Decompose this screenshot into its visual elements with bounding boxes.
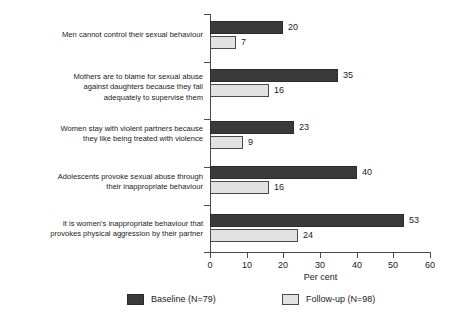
category-label-0: Men cannot control their sexual behaviou… <box>13 30 203 40</box>
bar-baseline-3[interactable] <box>210 166 357 179</box>
bar-value-baseline-2: 23 <box>299 121 309 134</box>
category-label-line: adequately to supervise them <box>13 93 203 103</box>
legend-label-baseline: Baseline (N=79) <box>151 292 216 307</box>
category-label-line: against daughters because they fail <box>13 82 203 92</box>
legend-swatch-baseline <box>127 294 144 305</box>
chart-legend: Baseline (N=79) Follow-up (N=98) <box>0 292 457 312</box>
bar-value-followup-2: 9 <box>248 136 253 149</box>
bar-followup-3[interactable] <box>210 181 269 194</box>
value-axis-tick-label: 30 <box>308 260 332 271</box>
category-label-4: It is women's inappropriate behaviour th… <box>13 219 203 240</box>
category-label-line: provokes physical aggression by their pa… <box>13 229 203 239</box>
category-label-line: Mothers are to blame for sexual abuse <box>13 72 203 82</box>
value-axis-tick <box>393 252 394 258</box>
value-axis-tick <box>357 252 358 258</box>
value-axis-tick <box>247 252 248 258</box>
bar-value-baseline-3: 40 <box>362 166 372 179</box>
category-label-3: Adolescents provoke sexual abuse through… <box>13 172 203 193</box>
category-axis-tick <box>204 205 210 206</box>
bar-value-followup-4: 24 <box>303 229 313 242</box>
bar-baseline-4[interactable] <box>210 214 404 227</box>
x-axis-title: Per cent <box>210 272 431 282</box>
category-label-line: Men cannot control their sexual behaviou… <box>13 30 203 40</box>
value-axis-tick <box>283 252 284 258</box>
category-label-line: Women stay with violent partners because <box>13 124 203 134</box>
category-axis-tick <box>204 119 210 120</box>
bar-followup-2[interactable] <box>210 136 243 149</box>
bar-chart: Men cannot control their sexual behaviou… <box>0 0 457 322</box>
value-axis-tick-label: 0 <box>198 260 222 271</box>
bar-baseline-2[interactable] <box>210 121 294 134</box>
category-label-2: Women stay with violent partners because… <box>13 124 203 145</box>
value-axis-tick <box>430 252 431 258</box>
value-axis-tick-label: 50 <box>381 260 405 271</box>
category-axis-tick <box>204 62 210 63</box>
bar-baseline-1[interactable] <box>210 69 338 82</box>
category-label-line: It is women's inappropriate behaviour th… <box>13 219 203 229</box>
bar-value-baseline-1: 35 <box>343 69 353 82</box>
category-label-line: Adolescents provoke sexual abuse through <box>13 172 203 182</box>
bar-value-baseline-0: 20 <box>288 21 298 34</box>
category-label-1: Mothers are to blame for sexual abuse ag… <box>13 72 203 103</box>
value-axis-tick <box>210 252 211 258</box>
value-axis-tick <box>320 252 321 258</box>
value-axis-tick-label: 60 <box>418 260 442 271</box>
bar-value-baseline-4: 53 <box>409 214 419 227</box>
bar-followup-1[interactable] <box>210 84 269 97</box>
legend-swatch-followup <box>282 294 299 305</box>
bar-value-followup-1: 16 <box>274 84 284 97</box>
legend-label-followup: Follow-up (N=98) <box>306 292 375 307</box>
bar-baseline-0[interactable] <box>210 21 283 34</box>
bar-value-followup-0: 7 <box>241 36 246 49</box>
value-axis-tick-label: 40 <box>345 260 369 271</box>
category-label-line: they like being treated with violence <box>13 134 203 144</box>
category-label-line: their inappropriate behaviour <box>13 182 203 192</box>
value-axis-tick-label: 10 <box>235 260 259 271</box>
bar-followup-4[interactable] <box>210 229 298 242</box>
value-axis-tick-label: 20 <box>271 260 295 271</box>
category-axis-tick <box>204 14 210 15</box>
bar-followup-0[interactable] <box>210 36 236 49</box>
bar-value-followup-3: 16 <box>274 181 284 194</box>
